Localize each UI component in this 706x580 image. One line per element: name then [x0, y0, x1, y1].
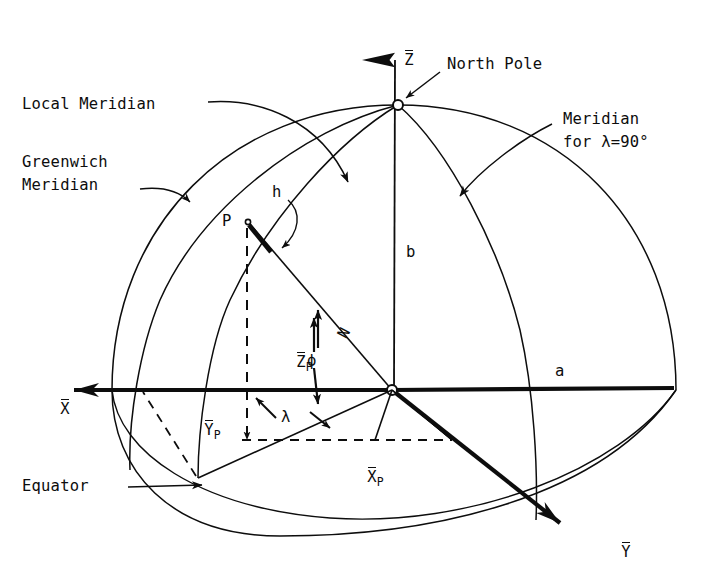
xp-component-label: XP — [329, 450, 384, 508]
local-meridian-label: Local Meridian — [22, 95, 155, 113]
xp-subscript: P — [377, 475, 384, 489]
y-axis-line — [392, 390, 560, 523]
height-h-label: h — [272, 183, 282, 201]
semi-major-a-label: a — [555, 362, 565, 380]
zp-subscript: P — [306, 360, 313, 374]
z-axis-letter: Z — [404, 51, 414, 69]
north-pole-marker — [393, 100, 403, 110]
zp-letter: Z — [296, 353, 306, 371]
yp-component-label: YP — [166, 403, 221, 461]
z-axis-label: Z — [366, 33, 414, 88]
longitude-lambda-label: λ — [281, 408, 291, 426]
xp-letter: X — [367, 468, 377, 486]
meridian-90-leader — [460, 124, 552, 196]
x-axis-letter: X — [60, 400, 70, 418]
local-meridian-leader — [208, 102, 348, 182]
x-axis-label: X — [22, 382, 70, 437]
equatorial-plane-lines — [198, 390, 452, 478]
north-pole-label: North Pole — [447, 55, 542, 73]
semi-minor-b-label: b — [406, 243, 416, 261]
height-h-leader — [282, 200, 297, 248]
semi-major-axis-line — [392, 388, 674, 390]
point-p-marker — [245, 219, 250, 224]
zp-component-label: ZP — [258, 335, 313, 393]
meridian-90-label-line1: Meridian — [563, 110, 639, 128]
yp-subscript: P — [214, 428, 221, 442]
meridian-90-label-line2: for λ=90° — [563, 133, 649, 151]
local-meridian-arc — [198, 105, 398, 478]
yp-letter: Y — [204, 421, 214, 439]
meridian-90-arc — [398, 105, 536, 520]
geodetic-diagram: Local Meridian Greenwich Meridian North … — [0, 0, 706, 580]
equator-label: Equator — [22, 477, 89, 495]
y-axis-label: Y — [583, 525, 631, 580]
greenwich-meridian-leader — [140, 188, 190, 202]
point-p-label: P — [222, 212, 232, 230]
height-h-segment — [249, 225, 271, 252]
y-axis-letter: Y — [621, 543, 631, 561]
equator-leader — [128, 485, 202, 487]
greenwich-meridian-label-line1: Greenwich — [22, 153, 108, 171]
greenwich-meridian-label-line2: Meridian — [22, 176, 98, 194]
